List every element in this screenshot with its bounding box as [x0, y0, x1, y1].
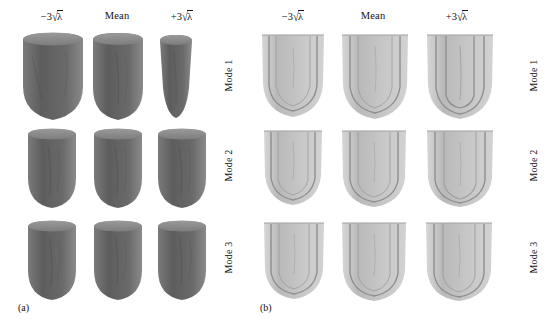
- radical-icon: √: [182, 10, 188, 24]
- panel-b-caption: (b): [260, 302, 272, 313]
- shape-a-mode1-plus: [158, 32, 194, 120]
- shape-b-mode1-plus: [425, 30, 495, 122]
- shape-b-mode1-mean: [340, 30, 410, 122]
- shape-b-mode2-minus: [262, 126, 324, 208]
- shape-a-mode3-plus: [156, 218, 208, 302]
- header-sign: −3: [282, 11, 294, 22]
- ventricle-translucent-icon: [340, 218, 408, 304]
- shape-b-mode3-mean: [340, 218, 408, 304]
- panel-a-column-header-minus: −3√λ: [22, 10, 82, 22]
- panel-a-row-label-mode3: Mode 3: [223, 228, 234, 288]
- panel-a: −3√λ Mean +3√λ: [0, 0, 250, 331]
- ventricle-opaque-icon: [92, 218, 144, 302]
- ventricle-translucent-icon: [262, 218, 326, 302]
- ventricle-opaque-icon: [26, 218, 78, 302]
- ventricle-opaque-icon: [156, 126, 208, 210]
- panel-b-row-label-mode3: Mode 3: [528, 228, 539, 288]
- panel-a-row-label-mode2: Mode 2: [223, 136, 234, 196]
- shape-b-mode2-mean: [340, 126, 408, 210]
- shape-b-mode3-plus: [423, 218, 495, 304]
- panel-b-column-header-mean: Mean: [343, 10, 403, 21]
- ventricle-translucent-icon: [425, 126, 495, 210]
- ventricle-opaque-icon: [26, 126, 78, 210]
- panel-a-column-header-mean: Mean: [87, 10, 147, 21]
- header-sign: +3: [171, 11, 183, 22]
- ventricle-translucent-icon: [423, 218, 495, 304]
- shape-b-mode1-minus: [260, 30, 326, 120]
- ventricle-opaque-icon: [156, 218, 208, 302]
- panel-a-column-header-plus: +3√λ: [152, 10, 212, 22]
- shape-a-mode2-mean: [92, 126, 144, 210]
- shape-b-mode2-plus: [425, 126, 495, 210]
- ventricle-translucent-icon: [340, 126, 408, 210]
- header-sign: +3: [446, 11, 458, 22]
- panel-b-column-header-minus: −3√λ: [263, 10, 323, 22]
- shape-a-mode3-minus: [26, 218, 78, 302]
- header-sign: −3: [41, 11, 53, 22]
- radical-icon: √: [52, 10, 58, 24]
- shape-a-mode1-mean: [92, 30, 144, 122]
- ventricle-translucent-icon: [260, 30, 326, 120]
- panel-b-column-header-plus: +3√λ: [427, 10, 487, 22]
- radical-icon: √: [457, 10, 463, 24]
- panel-a-row-label-mode1: Mode 1: [223, 46, 234, 106]
- shape-a-mode2-minus: [26, 126, 78, 210]
- figure-root: −3√λ Mean +3√λ: [0, 0, 554, 331]
- shape-a-mode1-minus: [22, 30, 84, 122]
- panel-a-caption: (a): [18, 302, 29, 313]
- panel-b-row-label-mode1: Mode 1: [528, 46, 539, 106]
- shape-a-mode3-mean: [92, 218, 144, 302]
- ventricle-translucent-icon: [340, 30, 410, 122]
- ventricle-translucent-icon: [262, 126, 324, 208]
- panel-b: −3√λ Mean +3√λ: [250, 0, 554, 331]
- shape-b-mode3-minus: [262, 218, 326, 302]
- radical-icon: √: [293, 10, 299, 24]
- ventricle-opaque-icon: [92, 30, 144, 122]
- ventricle-opaque-icon: [22, 30, 84, 122]
- shape-a-mode2-plus: [156, 126, 208, 210]
- ventricle-opaque-icon: [92, 126, 144, 210]
- ventricle-opaque-icon: [158, 32, 194, 120]
- panel-b-row-label-mode2: Mode 2: [528, 136, 539, 196]
- ventricle-translucent-icon: [425, 30, 495, 122]
